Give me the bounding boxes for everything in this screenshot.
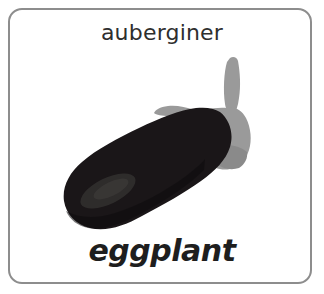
eggplant-body: [64, 108, 232, 230]
word-top-label: auberginer: [0, 20, 324, 46]
eggplant-image: eggplant: [8, 50, 312, 230]
word-bottom-label: eggplant: [0, 233, 324, 269]
flashcard-root: auberginer eggplant eggplant: [0, 0, 324, 294]
eggplant-stem-icon: [224, 57, 240, 116]
eggplant-illustration: eggplant: [8, 50, 312, 230]
